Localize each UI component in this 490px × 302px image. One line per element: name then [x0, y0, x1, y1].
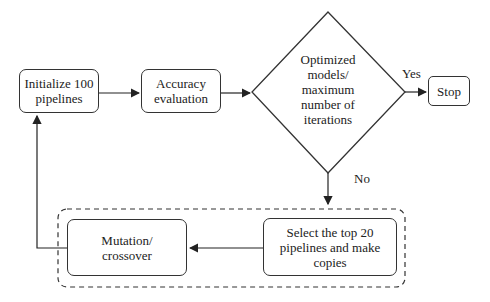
- mutation-crossover-label: Mutation/ crossover: [68, 233, 186, 263]
- accuracy-evaluation-node: Accuracy evaluation: [141, 69, 221, 113]
- decision-label: Optimized models/ maximum number of iter…: [283, 52, 373, 127]
- initialize-pipelines-node: Initialize 100 pipelines: [19, 69, 99, 113]
- stop-label: Stop: [437, 84, 461, 99]
- accuracy-evaluation-label: Accuracy evaluation: [142, 76, 220, 106]
- mutation-crossover-node: Mutation/ crossover: [67, 219, 187, 276]
- no-edge-label: No: [354, 171, 370, 186]
- select-top-node: Select the top 20 pipelines and make cop…: [263, 218, 397, 276]
- yes-edge-label: Yes: [402, 66, 421, 81]
- stop-node: Stop: [428, 76, 470, 106]
- initialize-pipelines-label: Initialize 100 pipelines: [20, 76, 98, 106]
- select-top-label: Select the top 20 pipelines and make cop…: [264, 225, 396, 270]
- flowchart: Initialize 100 pipelines Accuracy evalua…: [0, 0, 490, 302]
